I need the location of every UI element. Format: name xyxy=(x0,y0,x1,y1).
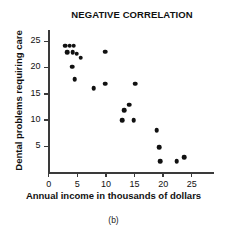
x-tick-label-20: 20 xyxy=(158,179,168,189)
x-tick-label-0: 0 xyxy=(46,179,51,189)
x-axis-label: Annual income in thousands of dollars xyxy=(0,190,227,201)
data-point xyxy=(174,159,179,164)
x-tick-0: 0 xyxy=(48,172,49,177)
y-tick-25: 25 xyxy=(44,41,49,42)
y-tick-label-15: 15 xyxy=(30,88,40,98)
data-point xyxy=(70,65,75,70)
x-tick-label-10: 10 xyxy=(101,179,111,189)
plot-area: 510152025 0510152025 xyxy=(48,30,214,172)
data-point xyxy=(127,102,132,107)
y-tick-10: 10 xyxy=(44,119,49,120)
y-axis-label: Dental problems requiring care xyxy=(13,21,24,181)
data-point xyxy=(71,43,76,48)
data-point xyxy=(154,128,159,133)
x-tick-25: 25 xyxy=(191,172,192,177)
chart-title: NEGATIVE CORRELATION xyxy=(48,9,216,20)
data-point xyxy=(103,81,108,86)
data-point xyxy=(122,108,127,113)
x-tick-20: 20 xyxy=(162,172,163,177)
x-tick-label-5: 5 xyxy=(75,179,80,189)
y-tick-label-20: 20 xyxy=(30,61,40,71)
x-axis-line xyxy=(48,172,214,174)
x-tick-15: 15 xyxy=(134,172,135,177)
data-point xyxy=(73,77,78,82)
y-tick-label-10: 10 xyxy=(30,114,40,124)
data-point xyxy=(65,50,70,55)
data-point xyxy=(103,49,108,54)
data-point xyxy=(132,118,137,123)
figure-scatter-plot: NEGATIVE CORRELATION Dental problems req… xyxy=(0,0,227,237)
data-point xyxy=(78,56,83,61)
data-point xyxy=(133,81,138,86)
y-axis-line xyxy=(48,30,50,172)
data-point xyxy=(91,86,96,91)
data-point xyxy=(157,145,162,150)
y-tick-20: 20 xyxy=(44,67,49,68)
y-tick-label-25: 25 xyxy=(30,35,40,45)
data-point xyxy=(182,155,187,160)
x-tick-label-15: 15 xyxy=(130,179,140,189)
y-tick-5: 5 xyxy=(44,146,49,147)
data-point xyxy=(158,159,163,164)
data-point xyxy=(120,118,125,123)
y-tick-15: 15 xyxy=(44,93,49,94)
x-tick-10: 10 xyxy=(105,172,106,177)
x-tick-5: 5 xyxy=(77,172,78,177)
y-tick-label-5: 5 xyxy=(35,140,40,150)
x-tick-label-25: 25 xyxy=(187,179,197,189)
figure-caption: (b) xyxy=(0,215,227,225)
